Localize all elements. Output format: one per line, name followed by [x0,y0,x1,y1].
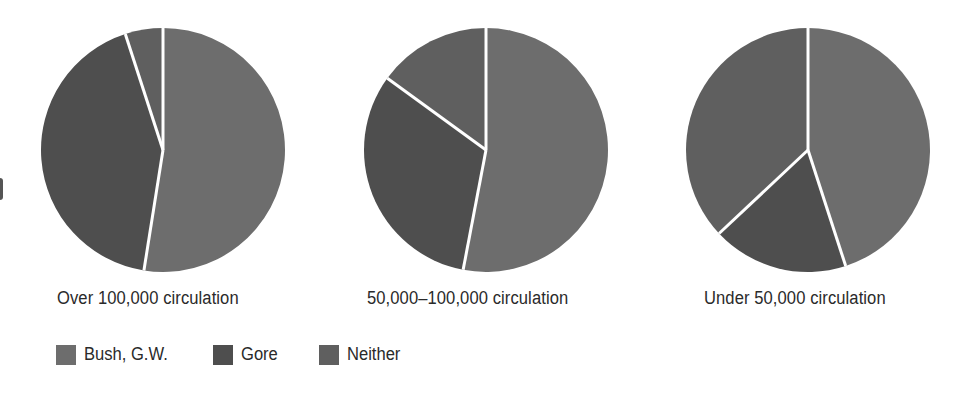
pie-label-50000-100000: 50,000–100,000 circulation [367,288,568,309]
slice-bush-g-w [144,28,285,272]
pie-label-under-50000: Under 50,000 circulation [704,288,886,309]
legend-item-bush: Bush, G.W. [56,344,175,365]
pie-over-100000 [41,28,285,272]
legend-item-gore: Gore [213,344,281,365]
legend-label-neither: Neither [347,344,400,365]
legend-label-gore: Gore [241,344,278,365]
legend-swatch-gore [213,345,233,365]
legend: Bush, G.W. Gore Neither [56,344,443,365]
legend-label-bush: Bush, G.W. [84,344,168,365]
pie-charts [0,0,970,290]
pie-label-over-100000: Over 100,000 circulation [57,288,239,309]
legend-swatch-bush [56,345,76,365]
legend-item-neither: Neither [319,344,405,365]
pie-50000-100000 [364,28,608,272]
pie-under-50000 [686,28,930,272]
legend-swatch-neither [319,345,339,365]
